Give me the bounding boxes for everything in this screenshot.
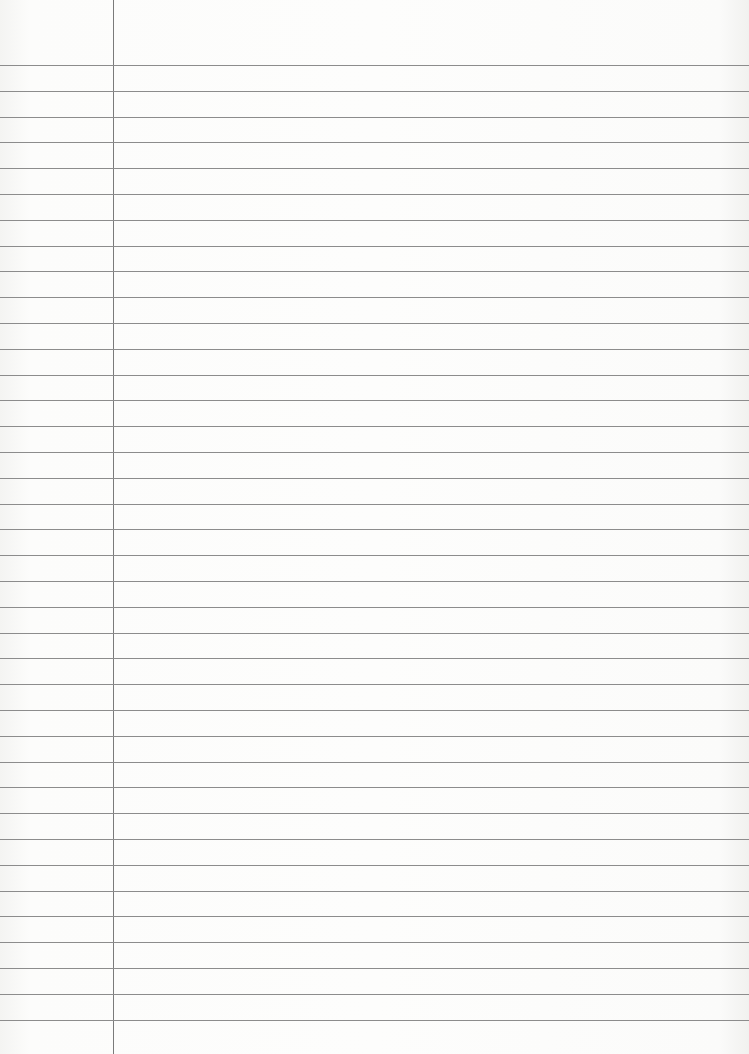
ruled-line [0, 142, 749, 143]
ruled-line [0, 607, 749, 608]
ruled-line [0, 65, 749, 66]
ruled-line [0, 736, 749, 737]
ruled-line [0, 839, 749, 840]
ruled-line [0, 426, 749, 427]
lined-paper-sheet [0, 0, 749, 1054]
ruled-line [0, 555, 749, 556]
ruled-line [0, 891, 749, 892]
ruled-line [0, 658, 749, 659]
ruled-line [0, 91, 749, 92]
ruled-line [0, 375, 749, 376]
ruled-line [0, 787, 749, 788]
ruled-line [0, 529, 749, 530]
ruled-line [0, 813, 749, 814]
ruled-line [0, 762, 749, 763]
ruled-line [0, 942, 749, 943]
ruled-line [0, 323, 749, 324]
ruled-line [0, 194, 749, 195]
ruled-line [0, 400, 749, 401]
ruled-line [0, 452, 749, 453]
ruled-line [0, 710, 749, 711]
ruled-line [0, 994, 749, 995]
ruled-line [0, 349, 749, 350]
ruled-line [0, 271, 749, 272]
ruled-line [0, 168, 749, 169]
ruled-line [0, 297, 749, 298]
ruled-line [0, 968, 749, 969]
ruled-line [0, 220, 749, 221]
margin-line [113, 0, 114, 1054]
ruled-line [0, 1020, 749, 1021]
ruled-line [0, 684, 749, 685]
ruled-line [0, 916, 749, 917]
ruled-line [0, 478, 749, 479]
ruled-line [0, 581, 749, 582]
ruled-line [0, 117, 749, 118]
ruled-line [0, 246, 749, 247]
ruled-line [0, 504, 749, 505]
ruled-line [0, 865, 749, 866]
ruled-line [0, 633, 749, 634]
